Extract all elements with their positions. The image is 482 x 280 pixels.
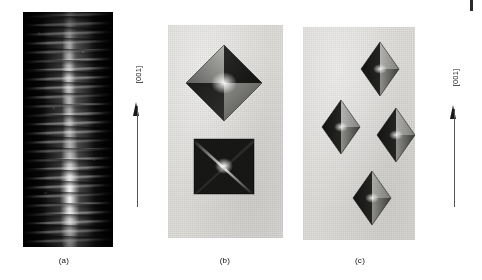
- crystal-bipyramid-bottom: [351, 170, 393, 226]
- corner-tick-mark: [470, 0, 473, 11]
- micrograph-vignette: [23, 12, 113, 247]
- crystal-bipyramid-right: [375, 107, 415, 163]
- direction-arrow-left: [001]: [130, 92, 146, 207]
- crystal-square-projection: [193, 138, 255, 195]
- caption-panel-a: (a): [44, 256, 84, 265]
- crystal-octahedron: [182, 43, 266, 123]
- direction-arrow-right: [001]: [447, 95, 463, 207]
- panel-c-print: [303, 27, 415, 240]
- crystal-bipyramid-left: [320, 99, 362, 155]
- caption-panel-b: (b): [205, 256, 245, 265]
- figure-container: [001]: [0, 0, 482, 280]
- caption-panel-c: (c): [340, 256, 380, 265]
- arrow-shaft: [137, 106, 138, 207]
- direction-label-right: [001]: [451, 54, 460, 102]
- panel-a-micrograph: [23, 12, 113, 247]
- direction-label-left: [001]: [134, 51, 143, 99]
- arrow-shaft: [454, 109, 455, 207]
- panel-b-print: [168, 25, 283, 238]
- crystal-bipyramid-top: [359, 41, 401, 97]
